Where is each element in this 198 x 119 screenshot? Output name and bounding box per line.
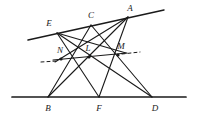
point-label-e: E: [46, 19, 52, 28]
point-label-n: N: [57, 46, 63, 55]
point-label-c: C: [88, 11, 94, 20]
segment-E-M: [57, 33, 126, 53]
point-label-f: F: [96, 104, 102, 113]
segment-E-F: [57, 33, 99, 97]
segment-A-F: [99, 17, 128, 97]
lines-group: [12, 10, 186, 97]
point-label-d: D: [152, 104, 159, 113]
vertex-dot-n: [59, 57, 62, 60]
vertex-dot-l: [87, 55, 90, 58]
geometry-figure: ECABFDNLM: [0, 0, 198, 119]
point-label-m: M: [117, 42, 125, 51]
geometry-canvas: [0, 0, 198, 119]
point-label-a: A: [127, 4, 133, 13]
point-label-l: L: [85, 44, 90, 53]
vertex-dot-m: [116, 53, 119, 56]
segment-E-D: [57, 33, 152, 97]
point-label-b: B: [45, 104, 51, 113]
